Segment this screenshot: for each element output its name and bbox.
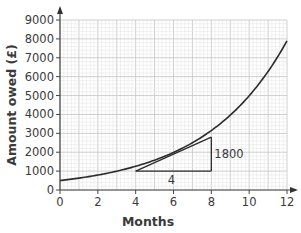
run-label: 4 <box>168 173 175 187</box>
chart: 0246810120100020003000400050006000700080… <box>0 0 301 233</box>
x-tick-label: 8 <box>208 195 215 209</box>
y-tick-label: 3000 <box>25 126 54 140</box>
x-tick-label: 6 <box>170 195 177 209</box>
x-tick-label: 10 <box>242 195 257 209</box>
grid <box>60 20 287 190</box>
y-axis-label: Amount owed (£) <box>4 44 19 165</box>
y-tick-label: 5000 <box>25 89 54 103</box>
y-tick-label: 4000 <box>25 107 54 121</box>
y-tick-label: 7000 <box>25 51 54 65</box>
y-axis-arrow-icon <box>57 6 63 14</box>
rise-label: 1800 <box>214 147 243 161</box>
y-tick-label: 9000 <box>25 13 54 27</box>
x-axis-label: Months <box>122 214 174 229</box>
y-tick-label: 8000 <box>25 32 54 46</box>
y-tick-label: 6000 <box>25 70 54 84</box>
y-tick-label: 1000 <box>25 164 54 178</box>
x-tick-label: 2 <box>94 195 101 209</box>
x-axis-arrow-icon <box>290 187 298 193</box>
x-tick-label: 0 <box>56 195 63 209</box>
x-tick-label: 12 <box>280 195 295 209</box>
y-tick-label: 0 <box>47 183 54 197</box>
x-tick-label: 4 <box>132 195 139 209</box>
y-tick-label: 2000 <box>25 145 54 159</box>
